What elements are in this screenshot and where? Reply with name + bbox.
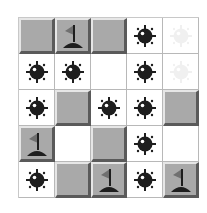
cell-r1-c5[interactable] <box>163 18 199 54</box>
cell-r1-c2[interactable] <box>55 18 91 54</box>
cell-r5-c5[interactable] <box>163 162 199 198</box>
cell-r5-c1[interactable] <box>19 162 55 198</box>
cell-r3-c5[interactable] <box>163 90 199 126</box>
cell-r4-c3[interactable] <box>91 126 127 162</box>
cell-r2-c4[interactable] <box>127 54 163 90</box>
cell-r4-c2[interactable] <box>55 126 91 162</box>
cell-r1-c3[interactable] <box>91 18 127 54</box>
minefield-board <box>18 17 199 198</box>
cell-r4-c4[interactable] <box>127 126 163 162</box>
cell-r2-c1[interactable] <box>19 54 55 90</box>
cell-r3-c4[interactable] <box>127 90 163 126</box>
cell-r3-c3[interactable] <box>91 90 127 126</box>
cell-r1-c1[interactable] <box>19 18 55 54</box>
cell-r5-c2[interactable] <box>55 162 91 198</box>
cell-r3-c1[interactable] <box>19 90 55 126</box>
cell-r4-c5[interactable] <box>163 126 199 162</box>
cell-r2-c5[interactable] <box>163 54 199 90</box>
cell-r5-c3[interactable] <box>91 162 127 198</box>
cell-r3-c2[interactable] <box>55 90 91 126</box>
cell-r2-c2[interactable] <box>55 54 91 90</box>
cell-r2-c3[interactable] <box>91 54 127 90</box>
cell-r4-c1[interactable] <box>19 126 55 162</box>
cell-r5-c4[interactable] <box>127 162 163 198</box>
cell-r1-c4[interactable] <box>127 18 163 54</box>
